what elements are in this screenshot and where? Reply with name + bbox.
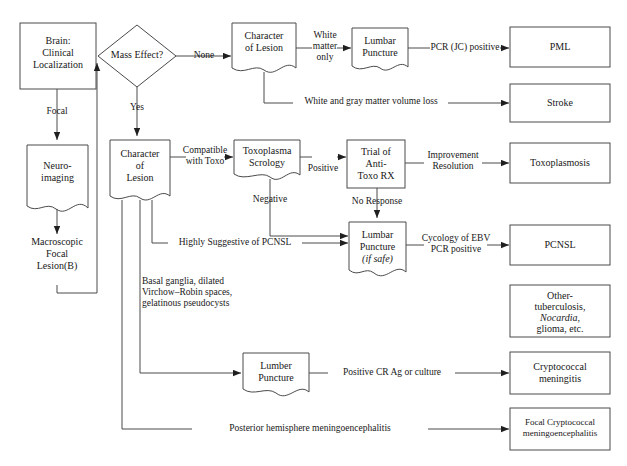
outcome-crypto-meningitis-shape bbox=[510, 352, 610, 394]
outcome-pml-shape bbox=[510, 27, 610, 67]
node-brain-shape bbox=[20, 23, 96, 89]
node-character-top-shape bbox=[232, 23, 296, 72]
outcome-toxoplasmosis-shape bbox=[510, 143, 610, 183]
node-neuroimaging-shape bbox=[27, 145, 88, 211]
outcome-pcnsl-shape bbox=[510, 225, 610, 265]
node-lumber-bottom-shape bbox=[243, 353, 309, 396]
flowchart-canvas bbox=[0, 0, 627, 466]
flowchart-diagram: Brain: Clinical Localization Neuro- imag… bbox=[0, 0, 627, 466]
edge-negative-to-lumbarsafe bbox=[270, 212, 348, 236]
node-character-mid-shape bbox=[110, 140, 170, 200]
outcome-stroke-shape bbox=[510, 84, 610, 122]
edge-charTop-to-stroke bbox=[264, 72, 293, 103]
node-trial-anti-toxo-shape bbox=[347, 140, 405, 188]
node-mass-effect-shape bbox=[98, 25, 176, 87]
edge-charMid-to-lumberBottom bbox=[140, 200, 241, 373]
edge-charMid-highlysuggestive bbox=[152, 200, 168, 243]
edge-macroscopic-to-massEffect bbox=[57, 63, 97, 293]
node-toxo-serology-shape bbox=[234, 140, 300, 179]
outcome-focal-crypto-shape bbox=[510, 408, 610, 450]
outcome-other-shape bbox=[510, 285, 610, 337]
node-lumbar-top-shape bbox=[352, 28, 408, 70]
node-lumbar-if-safe-shape bbox=[349, 222, 406, 276]
edge-charMid-to-posterior bbox=[122, 200, 192, 429]
